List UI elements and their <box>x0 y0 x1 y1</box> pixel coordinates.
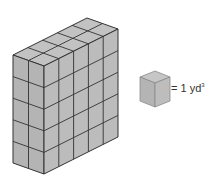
diagram-canvas: = 1 yd3 <box>0 0 218 182</box>
unit-legend-text: = 1 yd <box>171 82 201 94</box>
unit-legend: = 1 yd3 <box>171 82 205 94</box>
unit-legend-exponent: 3 <box>201 82 204 88</box>
